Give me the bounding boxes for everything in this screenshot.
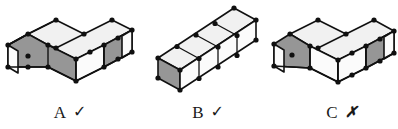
shape-a-illustration bbox=[4, 18, 136, 98]
shape-b-faces bbox=[158, 8, 256, 90]
check-mark-icon-b: ✓ bbox=[210, 104, 223, 120]
shape-a-faces bbox=[8, 20, 132, 81]
label-shape-a: A ✓ bbox=[20, 98, 120, 126]
label-letter-a: A bbox=[54, 104, 66, 121]
cross-mark-icon-c: ✗ bbox=[345, 105, 358, 120]
label-shape-b: B ✓ bbox=[158, 98, 258, 126]
shape-c-faces bbox=[274, 20, 394, 82]
figure-panel: A ✓ B ✓ C ✗ bbox=[0, 0, 398, 129]
check-mark-icon-a: ✓ bbox=[73, 104, 86, 120]
shape-b-illustration bbox=[140, 2, 272, 98]
label-shape-c: C ✗ bbox=[292, 98, 392, 126]
label-letter-b: B bbox=[192, 104, 203, 121]
label-letter-c: C bbox=[326, 104, 337, 121]
shape-c-illustration bbox=[272, 18, 398, 98]
